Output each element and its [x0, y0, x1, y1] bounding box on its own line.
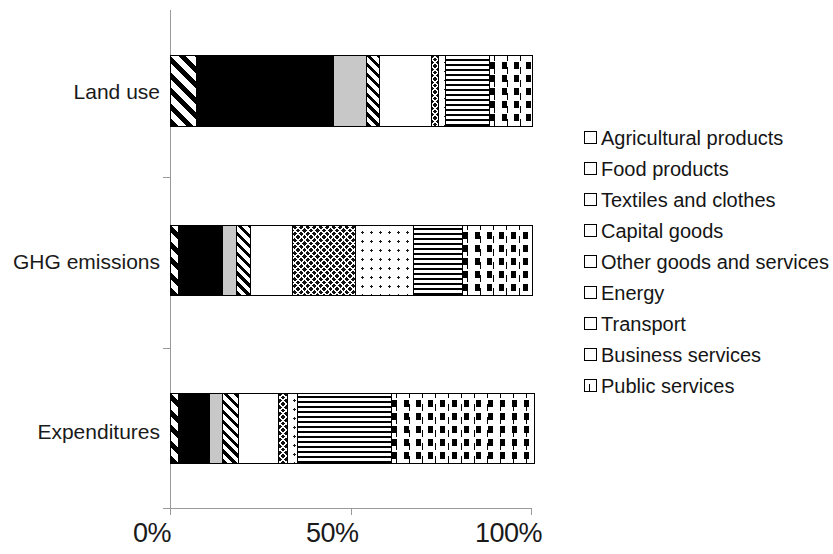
legend-label: Capital goods	[601, 221, 723, 241]
legend-label: Public services	[601, 376, 734, 396]
legend-item-public-services[interactable]: Public services	[584, 370, 833, 401]
bar-segment-textiles-and-clothes	[333, 56, 365, 126]
bar-segment-other-goods-and-services	[379, 56, 431, 126]
legend-label: Textiles and clothes	[601, 190, 776, 210]
dash-pattern-overlay	[392, 394, 534, 463]
legend-label: Agricultural products	[601, 128, 783, 148]
legend-label: Transport	[601, 314, 686, 334]
y-axis-tick	[163, 177, 170, 178]
bar-segment-business-services	[413, 226, 462, 295]
bar-segment-transport	[355, 226, 413, 295]
agri-pattern-swatch	[584, 131, 597, 144]
legend-item-food-products[interactable]: Food products	[584, 153, 833, 184]
other-pattern-swatch	[584, 255, 597, 268]
bar-segment-food-products	[196, 56, 333, 126]
bar-segment-capital-goods	[222, 394, 238, 463]
x-tick-label-50: 50%	[306, 518, 359, 549]
bar-segment-energy	[292, 226, 355, 295]
food-pattern-swatch	[584, 162, 597, 175]
bar-segment-capital-goods	[236, 226, 250, 295]
public-pattern-swatch	[584, 379, 597, 392]
category-label-ghg-emissions: GHG emissions	[13, 250, 160, 274]
bar-segment-textiles-and-clothes	[209, 394, 222, 463]
legend-label: Energy	[601, 283, 664, 303]
bar-segment-food-products	[178, 226, 221, 295]
capital-pattern-swatch	[584, 224, 597, 237]
bar-segment-energy	[278, 394, 287, 463]
bar-expenditures	[170, 393, 535, 464]
dash-pattern-overlay	[490, 56, 532, 126]
bar-segment-food-products	[178, 394, 209, 463]
bar-segment-business-services	[297, 394, 391, 463]
energy-pattern-swatch	[584, 286, 597, 299]
legend-item-business-services[interactable]: Business services	[584, 339, 833, 370]
bar-segment-business-services	[445, 56, 488, 126]
bar-segment-energy	[431, 56, 438, 126]
x-axis-tick	[170, 508, 171, 515]
bar-segment-transport	[438, 56, 445, 126]
x-tick-label-100: 100%	[475, 518, 542, 549]
bar-segment-other-goods-and-services	[250, 226, 292, 295]
bar-segment-transport	[287, 394, 298, 463]
bar-land-use	[170, 55, 533, 127]
legend: Agricultural productsFood productsTextil…	[584, 122, 833, 401]
stacked-bar-chart: 0% 50% 100% Land use GHG emissions Expen…	[0, 0, 833, 554]
category-label-land-use: Land use	[74, 80, 160, 104]
legend-label: Other goods and services	[601, 252, 829, 272]
legend-label: Food products	[601, 159, 729, 179]
legend-item-agricultural-products[interactable]: Agricultural products	[584, 122, 833, 153]
transport-pattern-swatch	[584, 317, 597, 330]
x-tick-label-0: 0%	[133, 518, 171, 549]
y-axis-tick	[163, 348, 170, 349]
bar-segment-other-goods-and-services	[238, 394, 278, 463]
y-axis-tick	[163, 508, 170, 509]
bar-segment-agricultural-products	[171, 394, 178, 463]
legend-label: Business services	[601, 345, 761, 365]
bar-segment-public-services	[391, 394, 534, 463]
legend-item-transport[interactable]: Transport	[584, 308, 833, 339]
bar-segment-capital-goods	[366, 56, 379, 126]
x-axis-tick	[351, 508, 352, 515]
legend-item-capital-goods[interactable]: Capital goods	[584, 215, 833, 246]
bar-segment-public-services	[462, 226, 532, 295]
legend-item-textiles-and-clothes[interactable]: Textiles and clothes	[584, 184, 833, 215]
bar-segment-textiles-and-clothes	[222, 226, 236, 295]
bar-segment-public-services	[489, 56, 532, 126]
dash-pattern-overlay	[463, 226, 532, 295]
legend-item-energy[interactable]: Energy	[584, 277, 833, 308]
business-pattern-swatch	[584, 348, 597, 361]
bar-segment-agricultural-products	[171, 226, 178, 295]
bar-segment-agricultural-products	[171, 56, 196, 126]
legend-item-other-goods-and-services[interactable]: Other goods and services	[584, 246, 833, 277]
category-label-expenditures: Expenditures	[37, 420, 160, 444]
dash-pattern-overlay	[585, 380, 596, 391]
bar-ghg-emissions	[170, 225, 533, 296]
x-axis-tick	[531, 508, 532, 515]
textiles-pattern-swatch	[584, 193, 597, 206]
